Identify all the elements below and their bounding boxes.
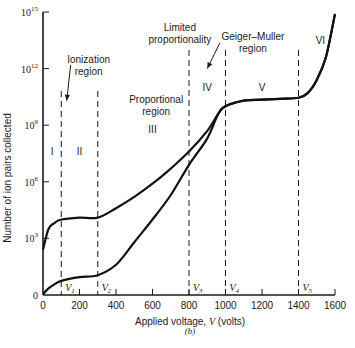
y-tick-label: 106 bbox=[25, 175, 39, 188]
x-tick-label: 1400 bbox=[287, 300, 310, 311]
x-tick-label: 0 bbox=[40, 300, 46, 311]
x-tick-label: 400 bbox=[108, 300, 125, 311]
y-tick-label: 109 bbox=[25, 118, 39, 131]
marker-label-v5: V5 bbox=[303, 282, 313, 295]
annotation-ionization: Ionizationregion bbox=[67, 54, 110, 77]
y-tick-label: 1012 bbox=[21, 62, 39, 75]
annotation-proportional: Proportionalregion bbox=[129, 94, 183, 117]
arrowhead-icon bbox=[65, 94, 70, 100]
y-tick-label: 0 bbox=[33, 290, 38, 301]
y-tick-label: 1015 bbox=[21, 5, 39, 18]
marker-label-v2: V2 bbox=[102, 282, 112, 295]
x-tick-label: 1200 bbox=[251, 300, 274, 311]
region-iii: III bbox=[148, 124, 156, 135]
region-ii: II bbox=[77, 146, 83, 157]
caption: (b) bbox=[185, 326, 196, 336]
y-axis-label: Number of ion pairs collected bbox=[2, 113, 13, 243]
x-tick-label: 600 bbox=[144, 300, 161, 311]
region-i: I bbox=[51, 146, 54, 157]
marker-label-v3: V3 bbox=[193, 282, 203, 295]
region-iv: IV bbox=[203, 82, 213, 93]
region-vi: VI bbox=[316, 35, 325, 46]
annotation-limited: Limitedproportionality bbox=[148, 22, 211, 45]
ion-pairs-vs-voltage-chart: V1V2V3V4V5 02004006008001000120014001600… bbox=[0, 0, 355, 348]
annotations: IIIIIIIVVVIIonizationregionProportionalr… bbox=[51, 22, 325, 158]
region-v: V bbox=[259, 82, 266, 93]
x-tick-label: 800 bbox=[181, 300, 198, 311]
region-boundary-lines: V1V2V3V4V5 bbox=[61, 50, 312, 295]
x-tick-label: 1600 bbox=[324, 300, 347, 311]
annotation-geiger-muller: Geiger–Mullerregion bbox=[221, 31, 284, 54]
x-tick-label: 1000 bbox=[214, 300, 237, 311]
x-tick-label: 200 bbox=[71, 300, 88, 311]
marker-label-v1: V1 bbox=[65, 282, 75, 295]
y-tick-label: 103 bbox=[25, 231, 39, 244]
marker-label-v4: V4 bbox=[230, 282, 240, 295]
